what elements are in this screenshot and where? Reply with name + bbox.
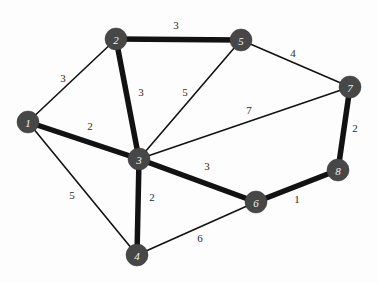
node-circle-5[interactable] bbox=[230, 29, 252, 51]
edge-weight-1-2: 3 bbox=[60, 72, 66, 84]
edge-weight-3-6: 3 bbox=[204, 160, 210, 172]
edge-7-8[interactable] bbox=[338, 87, 350, 170]
graph-canvas: 12345678 3253325376412 bbox=[0, 0, 378, 283]
node-5[interactable]: 5 bbox=[230, 29, 252, 51]
node-7[interactable]: 7 bbox=[339, 76, 361, 98]
edge-weight-6-8: 1 bbox=[294, 193, 300, 205]
node-circle-8[interactable] bbox=[327, 159, 349, 181]
edge-weight-3-5: 5 bbox=[182, 86, 188, 98]
node-6[interactable]: 6 bbox=[245, 191, 267, 213]
edge-weight-3-4: 2 bbox=[149, 191, 155, 203]
edge-6-8[interactable] bbox=[256, 170, 338, 202]
edge-2-5[interactable] bbox=[116, 39, 241, 40]
node-8[interactable]: 8 bbox=[327, 159, 349, 181]
edge-weight-1-4: 5 bbox=[69, 189, 75, 201]
edge-weight-2-5: 3 bbox=[173, 19, 179, 31]
node-circle-3[interactable] bbox=[128, 148, 150, 170]
edge-weight-3-7: 7 bbox=[246, 104, 252, 116]
edge-weight-5-7: 4 bbox=[290, 47, 296, 59]
edge-2-3[interactable] bbox=[116, 39, 139, 159]
edge-weight-7-8: 2 bbox=[352, 122, 358, 134]
edges-layer bbox=[28, 39, 350, 255]
node-2[interactable]: 2 bbox=[105, 28, 127, 50]
node-circle-1[interactable] bbox=[17, 111, 39, 133]
node-4[interactable]: 4 bbox=[126, 244, 148, 266]
graph-figure: 12345678 3253325376412 bbox=[0, 0, 378, 283]
edge-1-3[interactable] bbox=[28, 122, 139, 159]
edge-5-7[interactable] bbox=[241, 40, 350, 87]
nodes-layer: 12345678 bbox=[17, 28, 361, 266]
edge-3-6[interactable] bbox=[139, 159, 256, 202]
edge-weight-2-3: 3 bbox=[138, 86, 144, 98]
node-1[interactable]: 1 bbox=[17, 111, 39, 133]
edge-4-6[interactable] bbox=[137, 202, 256, 255]
node-circle-6[interactable] bbox=[245, 191, 267, 213]
node-circle-2[interactable] bbox=[105, 28, 127, 50]
node-3[interactable]: 3 bbox=[128, 148, 150, 170]
node-circle-4[interactable] bbox=[126, 244, 148, 266]
edge-1-2[interactable] bbox=[28, 39, 116, 122]
edge-weights-layer: 3253325376412 bbox=[60, 19, 358, 244]
edge-weight-1-3: 2 bbox=[87, 120, 93, 132]
node-circle-7[interactable] bbox=[339, 76, 361, 98]
edge-weight-4-6: 6 bbox=[197, 232, 203, 244]
edge-3-4[interactable] bbox=[137, 159, 139, 255]
